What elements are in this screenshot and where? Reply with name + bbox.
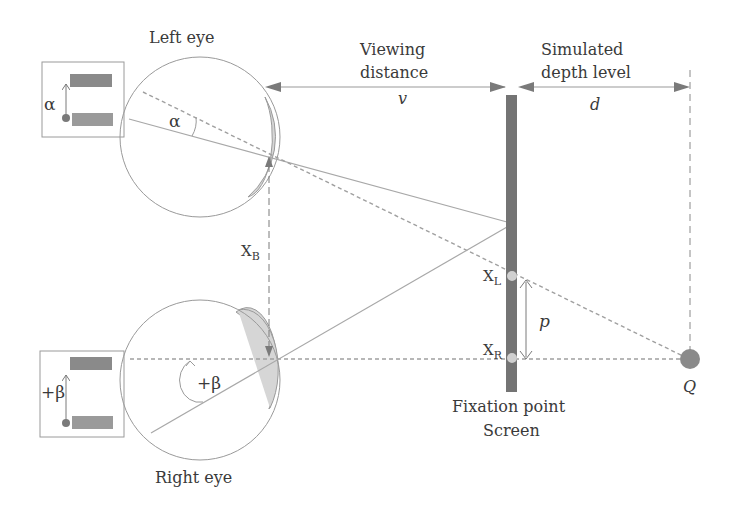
right-eye-label: Right eye — [155, 468, 232, 487]
xl-point — [507, 271, 517, 281]
stereo-geometry-diagram: α +β α Left eye +β Right eye — [0, 0, 733, 512]
q-label: Q — [683, 377, 696, 396]
screen: XL XR p Fixation point Screen — [452, 95, 566, 440]
simulated-point-q: Q — [680, 349, 700, 396]
right-eye: +β Right eye — [120, 227, 680, 487]
left-eyeball — [120, 57, 280, 217]
beta-inset-label: +β — [41, 382, 65, 402]
xr-subscript: R — [494, 349, 503, 362]
alpha-inset-label: α — [44, 94, 56, 114]
xr-label: X — [483, 341, 494, 359]
fixation-label-line2: Screen — [483, 421, 540, 440]
beta-angle-label: +β — [197, 373, 221, 393]
svg-text:XB: XB — [241, 242, 260, 263]
viewing-label-line2: distance — [360, 63, 428, 82]
screen-bar — [506, 95, 517, 392]
depth-label-line2: depth level — [541, 63, 631, 82]
fixation-label-line1: Fixation point — [452, 397, 566, 416]
xb-label: X — [241, 242, 252, 260]
xb-subscript: B — [252, 250, 260, 263]
left-eye-inset: α — [42, 62, 124, 137]
xl-subscript: L — [494, 275, 502, 288]
viewing-symbol: v — [398, 89, 407, 108]
viewing-distance-dimension: Viewing distance v — [265, 40, 506, 108]
depth-level-dimension: Simulated depth level d — [518, 40, 690, 352]
viewing-label-line1: Viewing — [359, 40, 425, 59]
left-eye-label: Left eye — [149, 28, 215, 47]
depth-label-line1: Simulated — [541, 40, 623, 59]
left-cornea — [248, 97, 276, 197]
xl-label: X — [483, 267, 494, 285]
alpha-angle-label: α — [169, 111, 181, 131]
svg-text:XL: XL — [483, 267, 502, 288]
svg-text:XR: XR — [483, 341, 503, 362]
right-eye-inset: +β — [40, 351, 124, 437]
depth-symbol: d — [590, 95, 600, 114]
xr-point — [507, 353, 517, 363]
parallax-label: p — [539, 311, 550, 331]
q-point — [680, 349, 700, 369]
